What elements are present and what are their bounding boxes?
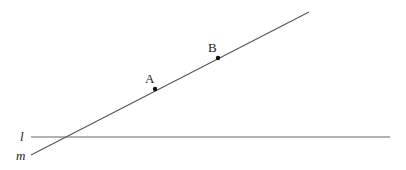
line-l-label: l bbox=[20, 129, 24, 144]
line-m-label: m bbox=[16, 148, 25, 163]
point-a-label: A bbox=[145, 71, 155, 86]
geometry-figure: l m A B bbox=[0, 0, 406, 170]
diagram-canvas: l m A B bbox=[0, 0, 406, 170]
point-a bbox=[153, 87, 157, 91]
line-m bbox=[31, 12, 309, 155]
point-b bbox=[216, 56, 220, 60]
point-b-label: B bbox=[208, 40, 217, 55]
